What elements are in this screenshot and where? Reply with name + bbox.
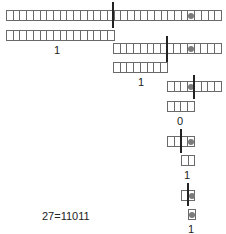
level-2-subarray	[113, 62, 168, 72]
target-marker-icon	[188, 139, 194, 145]
array-cell	[188, 209, 196, 220]
split-line	[193, 75, 195, 99]
bit-label: 1	[138, 77, 144, 88]
split-line	[166, 36, 168, 62]
array-cell	[188, 155, 196, 166]
split-line	[187, 183, 189, 206]
array-cell	[187, 136, 195, 147]
equation-label: 27=11011	[42, 211, 90, 222]
array-cell	[214, 10, 222, 21]
level-4-subarray	[181, 155, 195, 165]
split-line	[112, 2, 114, 28]
array-cell	[160, 62, 168, 73]
array-cell	[187, 101, 195, 112]
level-1-array	[6, 10, 222, 20]
array-cell	[214, 43, 222, 54]
bit-label: 1	[184, 170, 190, 181]
level-1-subarray	[6, 30, 115, 40]
target-marker-icon	[189, 193, 195, 199]
bit-label: 1	[188, 224, 194, 234]
bit-label: 1	[54, 45, 60, 56]
bit-label: 0	[177, 116, 183, 127]
array-cell	[214, 81, 222, 92]
target-marker-icon	[189, 212, 195, 218]
array-cell	[107, 30, 115, 41]
split-line	[180, 129, 182, 153]
level-5-subarray	[188, 209, 196, 219]
level-3-subarray	[167, 101, 195, 111]
